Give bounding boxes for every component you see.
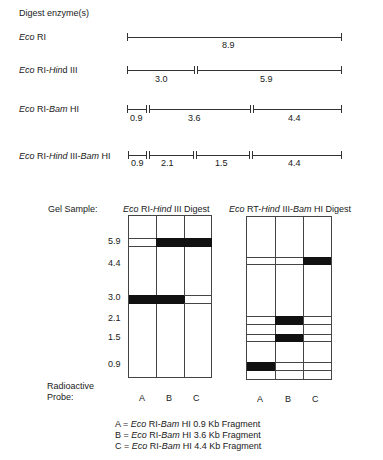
size-label: 3.0 xyxy=(108,292,121,302)
map-segment xyxy=(252,155,342,156)
map-segment xyxy=(196,155,249,156)
fragment-size: 4.4 xyxy=(288,113,301,123)
gel2-title: Eco RT-Hind III-Bam HI Digest xyxy=(229,204,351,214)
fragment-size: 3.6 xyxy=(188,113,201,123)
band-empty xyxy=(184,295,212,304)
map-tick xyxy=(250,105,251,113)
probe-label-line1: Radioactive xyxy=(47,381,94,391)
size-label: 2.1 xyxy=(108,313,121,323)
lane-label: B xyxy=(285,394,291,404)
map-tick xyxy=(341,66,342,74)
size-label: 1.5 xyxy=(108,332,121,342)
size-label: 5.9 xyxy=(108,236,121,246)
legend-item-a: A = Eco RI-Bam HI 0.9 Kb Fragment xyxy=(115,419,260,429)
fragment-size: 1.5 xyxy=(215,158,228,168)
map-segment xyxy=(149,155,193,156)
lane-label: A xyxy=(139,393,145,403)
map-line-ecori xyxy=(127,37,342,38)
map-tick xyxy=(127,66,128,74)
map-segment xyxy=(197,70,342,71)
map-segment xyxy=(127,70,195,71)
band-filled xyxy=(275,334,303,342)
lane-divider xyxy=(303,217,304,379)
band-filled xyxy=(129,295,185,304)
band-empty xyxy=(247,257,304,265)
diagram-title: Digest enzyme(s) xyxy=(19,8,89,18)
fragment-size: 2.1 xyxy=(161,158,174,168)
map-tick xyxy=(146,105,147,113)
digest-label-ecori: Eco RI xyxy=(19,32,46,42)
size-label: 0.9 xyxy=(108,359,121,369)
lane-label: A xyxy=(257,394,263,404)
map-segment xyxy=(253,109,342,110)
map-tick xyxy=(127,33,128,41)
gel-2 xyxy=(246,216,332,380)
map-segment xyxy=(149,109,250,110)
map-tick xyxy=(197,66,198,74)
fragment-size: 5.9 xyxy=(260,74,273,84)
gel-sample-label: Gel Sample: xyxy=(48,204,98,214)
map-tick xyxy=(194,66,195,74)
lane-label: C xyxy=(312,394,319,404)
fragment-size: 0.9 xyxy=(131,158,144,168)
map-tick xyxy=(149,151,150,159)
gel1-title: Eco RI-Hind III Digest xyxy=(123,204,210,214)
fragment-size: 4.4 xyxy=(288,158,301,168)
gel-1 xyxy=(128,215,212,378)
map-tick xyxy=(127,105,128,113)
digest-label-ecori-hindiii-bamhi: Eco RI-Hind III-Bam HI xyxy=(19,151,111,161)
fragment-size: 0.9 xyxy=(130,113,143,123)
map-tick xyxy=(341,105,342,113)
map-tick xyxy=(341,151,342,159)
band-filled xyxy=(303,257,331,265)
legend-item-c: C = Eco RI-Bam HI 4.4 Kb Fragment xyxy=(115,441,261,451)
digest-label-ecori-bamhi: Eco RI-Bam HI xyxy=(19,104,79,114)
band-filled xyxy=(247,362,275,371)
lane-label: C xyxy=(193,393,200,403)
map-segment xyxy=(127,109,146,110)
band-empty xyxy=(129,238,157,247)
band-filled xyxy=(275,316,303,325)
map-tick xyxy=(128,151,129,159)
map-tick xyxy=(149,105,150,113)
map-tick xyxy=(249,151,250,159)
map-tick xyxy=(253,105,254,113)
legend-item-b: B = Eco RI-Bam HI 3.6 Kb Fragment xyxy=(115,430,261,440)
band-filled xyxy=(156,238,212,247)
map-tick xyxy=(146,151,147,159)
map-tick xyxy=(252,151,253,159)
map-tick xyxy=(341,33,342,41)
digest-label-ecori-hindiii: Eco RI-Hind III xyxy=(19,65,78,75)
probe-label-line2: Probe: xyxy=(47,392,74,402)
lane-divider xyxy=(275,217,276,379)
map-tick xyxy=(196,151,197,159)
map-tick xyxy=(193,151,194,159)
size-label: 4.4 xyxy=(108,258,121,268)
map-segment xyxy=(128,155,146,156)
fragment-size: 3.0 xyxy=(155,74,168,84)
fragment-size: 8.9 xyxy=(222,40,235,50)
lane-label: B xyxy=(166,393,172,403)
